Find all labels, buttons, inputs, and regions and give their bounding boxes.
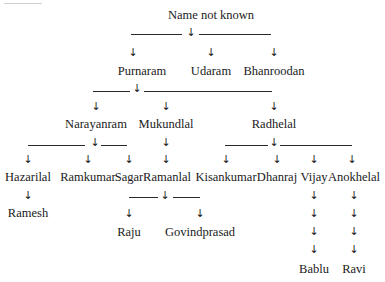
down-arrow-icon: ↓	[309, 226, 318, 237]
node-purnaram: Purnaram	[118, 65, 167, 78]
down-arrow-icon: ↓	[161, 154, 170, 165]
down-arrow-icon: ↓	[186, 27, 195, 38]
node-sagar: Sagar	[115, 171, 143, 184]
node-ramkumar: Ramkumar	[60, 171, 116, 184]
down-arrow-icon: ↓	[132, 83, 141, 94]
node-mukundlal: Mukundlal	[139, 118, 194, 131]
connector-line	[144, 91, 272, 92]
node-vijay: Vijay	[300, 171, 327, 184]
down-arrow-icon: ↓	[124, 208, 133, 219]
down-arrow-icon: ↓	[269, 101, 278, 112]
down-arrow-icon: ↓	[272, 154, 281, 165]
down-arrow-icon: ↓	[160, 190, 169, 201]
down-arrow-icon: ↓	[221, 154, 230, 165]
down-arrow-icon: ↓	[309, 208, 318, 219]
down-arrow-icon: ↓	[349, 190, 358, 201]
down-arrow-icon: ↓	[347, 154, 356, 165]
node-kisankumar: Kisankumar	[195, 171, 256, 184]
down-arrow-icon: ↓	[91, 101, 100, 112]
node-ravi: Ravi	[342, 263, 366, 276]
connector-line	[131, 34, 182, 35]
connector-line	[173, 197, 200, 198]
corner-rule	[4, 3, 42, 4]
node-root: Name not known	[168, 9, 254, 22]
down-arrow-icon: ↓	[349, 226, 358, 237]
down-arrow-icon: ↓	[206, 47, 215, 58]
down-arrow-icon: ↓	[23, 190, 32, 201]
node-dhanraj: Dhanraj	[257, 171, 297, 184]
down-arrow-icon: ↓	[349, 208, 358, 219]
connector-line	[280, 145, 352, 146]
family-tree-diagram: Name not known ↓ ↓ ↓ ↓ Purnaram Udaram B…	[0, 0, 385, 282]
down-arrow-icon: ↓	[90, 137, 99, 148]
node-udaram: Udaram	[191, 65, 231, 78]
down-arrow-icon: ↓	[161, 101, 170, 112]
connector-line	[28, 145, 85, 146]
node-narayanram: Narayanram	[65, 118, 127, 131]
node-hazarilal: Hazarilal	[5, 171, 51, 184]
down-arrow-icon: ↓	[269, 47, 278, 58]
connector-line	[199, 34, 271, 35]
connector-line	[225, 145, 268, 146]
down-arrow-icon: ↓	[195, 208, 204, 219]
down-arrow-icon: ↓	[83, 154, 92, 165]
node-bhanroodan: Bhanroodan	[243, 65, 304, 78]
node-govindprasad: Govindprasad	[165, 226, 235, 239]
down-arrow-icon: ↓	[309, 190, 318, 201]
node-ramanlal: Ramanlal	[143, 171, 191, 184]
node-bablu: Bablu	[299, 263, 329, 276]
node-radhelal: Radhelal	[252, 118, 296, 131]
down-arrow-icon: ↓	[309, 154, 318, 165]
connector-line	[101, 145, 127, 146]
down-arrow-icon: ↓	[128, 47, 137, 58]
down-arrow-icon: ↓	[309, 244, 318, 255]
node-anokhelal: Anokhelal	[328, 171, 380, 184]
node-raju: Raju	[117, 226, 141, 239]
down-arrow-icon: ↓	[161, 137, 170, 148]
down-arrow-icon: ↓	[23, 154, 32, 165]
connector-line	[129, 197, 158, 198]
down-arrow-icon: ↓	[124, 154, 133, 165]
down-arrow-icon: ↓	[349, 244, 358, 255]
connector-line	[93, 91, 130, 92]
down-arrow-icon: ↓	[269, 137, 278, 148]
node-ramesh: Ramesh	[8, 207, 48, 220]
